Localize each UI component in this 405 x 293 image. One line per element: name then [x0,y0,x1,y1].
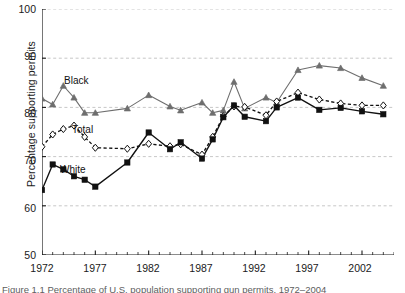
x-tick-1982: 1982 [126,262,170,274]
x-tick-1977: 1977 [73,262,117,274]
plot-area [42,9,394,255]
y-tick-70: 70 [8,155,36,166]
series-label-black: Black [64,75,88,86]
figure-caption: Figure 1.1 Percentage of U.S. population… [2,284,405,293]
series-label-total: Total [72,124,93,135]
series-label-white: White [60,164,86,175]
x-tick-1992: 1992 [232,262,276,274]
y-axis-tick-labels: 100 90 80 70 60 50 [8,0,36,293]
y-tick-60: 60 [8,203,36,214]
chart-canvas [42,9,394,255]
x-tick-1972: 1972 [20,262,64,274]
y-tick-80: 80 [8,108,36,119]
y-tick-100: 100 [8,4,36,15]
x-tick-1997: 1997 [285,262,329,274]
figure-gun-permit-support: Percentage supporting permits 100 90 80 … [0,0,405,293]
y-tick-50: 50 [8,250,36,261]
y-tick-90: 90 [8,51,36,62]
x-tick-2002: 2002 [338,262,382,274]
x-tick-1987: 1987 [179,262,223,274]
